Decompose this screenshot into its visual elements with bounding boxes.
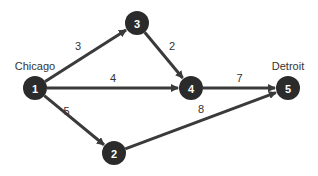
edge-weight-label: 4 [110, 72, 116, 84]
edge-3-4 [145, 32, 183, 78]
node-label: 2 [111, 148, 117, 160]
node-label: 5 [285, 83, 291, 95]
city-label-detroit: Detroit [272, 60, 304, 72]
node-label: 4 [188, 83, 195, 95]
edge-2-5 [125, 93, 276, 149]
edge-weight-label: 2 [169, 40, 175, 52]
edge-weight-label: 3 [75, 40, 81, 52]
city-label-chicago: Chicago [15, 60, 55, 72]
network-diagram: 345278 1Chicago2345Detroit [0, 0, 318, 176]
edge-weight-label: 8 [198, 103, 204, 115]
edge-weight-label: 7 [236, 72, 242, 84]
node-label: 1 [32, 83, 38, 95]
edge-weight-label: 5 [63, 105, 69, 117]
node-label: 3 [134, 18, 140, 30]
edge-1-2 [44, 96, 104, 145]
